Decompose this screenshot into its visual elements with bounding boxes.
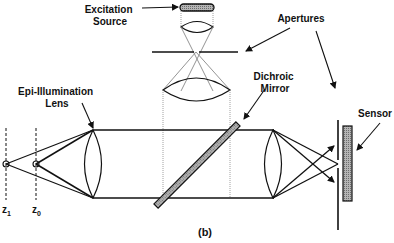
epi-illumination-lens [85, 130, 102, 198]
label-apertures: Apertures [277, 13, 325, 24]
label-sensor: Sensor [358, 108, 392, 119]
arrow-excitation [142, 7, 178, 8]
label-z0: z0 [32, 204, 41, 217]
dichroic-mirror [154, 122, 240, 208]
collimating-lens [163, 78, 230, 101]
label-dichroic: Dichroic Mirror [254, 71, 297, 94]
figure-caption: (b) [198, 226, 212, 238]
sensor [343, 126, 352, 201]
arrow-sensor [357, 123, 380, 150]
excitation-source [180, 4, 214, 11]
focusing-lens [265, 130, 282, 198]
arrow-epi-lens [82, 103, 93, 128]
arrow-aperture-2 [316, 31, 335, 88]
label-epi-lens: Epi-Illumination Lens [18, 86, 96, 109]
confocal-microscope-diagram: Excitation Source Apertures Dichroic Mir… [0, 0, 394, 243]
label-z1: z1 [2, 204, 11, 217]
arrow-aperture-1 [246, 28, 290, 51]
label-excitation: Excitation Source [85, 4, 136, 27]
top-lens [181, 22, 213, 33]
